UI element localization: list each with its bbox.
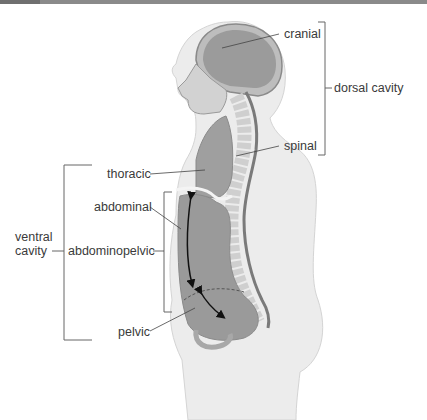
label-abdominal: abdominal [94, 200, 152, 214]
label-ventral: ventral [15, 230, 53, 244]
label-cranial: cranial [284, 27, 321, 41]
label-abdominopelvic: abdominopelvic [68, 244, 155, 258]
label-dorsal-cavity: dorsal cavity [334, 81, 403, 95]
label-thoracic: thoracic [107, 167, 151, 181]
body-cavities-illustration [0, 0, 427, 420]
label-spinal: spinal [284, 139, 317, 153]
label-pelvic: pelvic [118, 325, 150, 339]
label-cavity: cavity [15, 244, 47, 258]
dorsal-cavity-bracket [318, 22, 325, 155]
